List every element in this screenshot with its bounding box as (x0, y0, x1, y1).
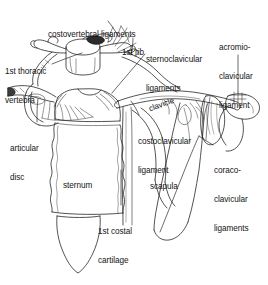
costoclavicular-ligament-left-shape (42, 101, 93, 121)
anatomical-figure: costovertebral ligaments 1st rib sternoc… (0, 0, 268, 285)
label-first-rib: 1st rib (122, 29, 144, 77)
label-first-costal-cartilage: 1st costal cartilage (98, 208, 132, 285)
label-articular-disc: articular disc (10, 125, 39, 202)
label-sternum: sternum (63, 162, 92, 210)
label-scapula: scapula (150, 163, 178, 211)
label-acromioclavicular-ligament: acromio- clavicular ligament (219, 24, 253, 130)
label-coracoclavicular-ligaments: coraco- clavicular ligaments (214, 147, 249, 253)
label-first-thoracic-vertebra: 1st thoracic vertebra (5, 48, 46, 125)
